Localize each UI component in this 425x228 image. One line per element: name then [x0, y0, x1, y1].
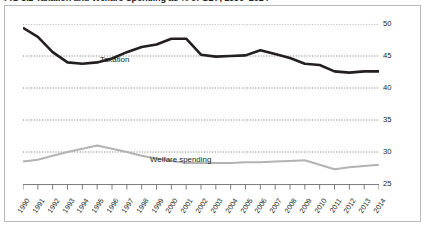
- y-axis: 253035404550: [383, 6, 423, 223]
- y-tick-label: 50: [383, 20, 391, 28]
- y-tick-label: 25: [383, 180, 391, 188]
- y-tick-label: 35: [383, 116, 391, 124]
- series-label-taxation: Taxation: [100, 55, 129, 64]
- chart-figure: FIG 3.2 Taxation and Welfare Spending as…: [0, 0, 425, 228]
- series-label-welfare: Welfare spending: [150, 155, 211, 164]
- y-tick-label: 30: [383, 148, 391, 156]
- gridlines: [23, 24, 379, 152]
- chart-title: FIG 3.2 Taxation and Welfare Spending as…: [4, 0, 422, 3]
- y-tick-label: 45: [383, 52, 391, 60]
- chart-frame: Taxation Welfare spending 253035404550 1…: [4, 5, 421, 222]
- x-axis: 1990199119921993199419951996199719981999…: [23, 184, 379, 222]
- plot-area: Taxation Welfare spending: [23, 24, 379, 184]
- series-line-taxation: [23, 28, 379, 73]
- series-lines: [23, 28, 379, 169]
- x-axis-line: [23, 184, 379, 195]
- y-tick-label: 40: [383, 84, 391, 92]
